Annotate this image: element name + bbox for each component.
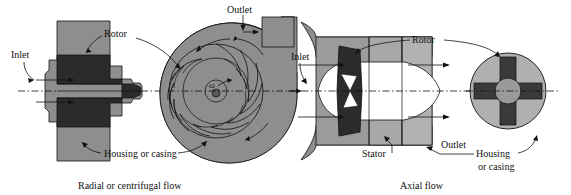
label-outlet-axial: Outlet xyxy=(441,139,466,150)
panel-radial: ω Inlet Rotor xyxy=(11,4,300,191)
leader-inlet-radial xyxy=(24,62,34,80)
label-outlet-radial: Outlet xyxy=(227,4,252,15)
label-housing-radial: Housing or casing xyxy=(104,148,177,159)
label-inlet-radial: Inlet xyxy=(11,49,30,60)
caption-radial: Radial or centrifugal flow xyxy=(78,180,182,191)
radial-shaft-center xyxy=(212,89,220,97)
label-inlet-axial: Inlet xyxy=(291,51,310,62)
label-housing-axial-line1: Housing xyxy=(476,148,510,159)
radial-outlet-duct xyxy=(262,17,294,47)
panel-axial: Inlet Rotor Stator Outlet Housing or cas… xyxy=(288,22,560,191)
leader-housing-axial-right xyxy=(518,137,536,153)
leader-rotor-axial-right xyxy=(444,40,498,55)
turbomachine-diagram: ω Inlet Rotor xyxy=(0,0,571,195)
label-housing-axial-line2: or casing xyxy=(478,161,514,172)
label-rotor-axial: Rotor xyxy=(412,34,435,45)
omega-symbol-label: ω xyxy=(209,81,215,90)
axial-end-view xyxy=(466,53,560,129)
label-stator-axial: Stator xyxy=(362,148,387,159)
caption-axial: Axial flow xyxy=(400,180,444,191)
label-rotor-radial: Rotor xyxy=(104,28,127,39)
figure-root: ω Inlet Rotor xyxy=(0,0,571,195)
